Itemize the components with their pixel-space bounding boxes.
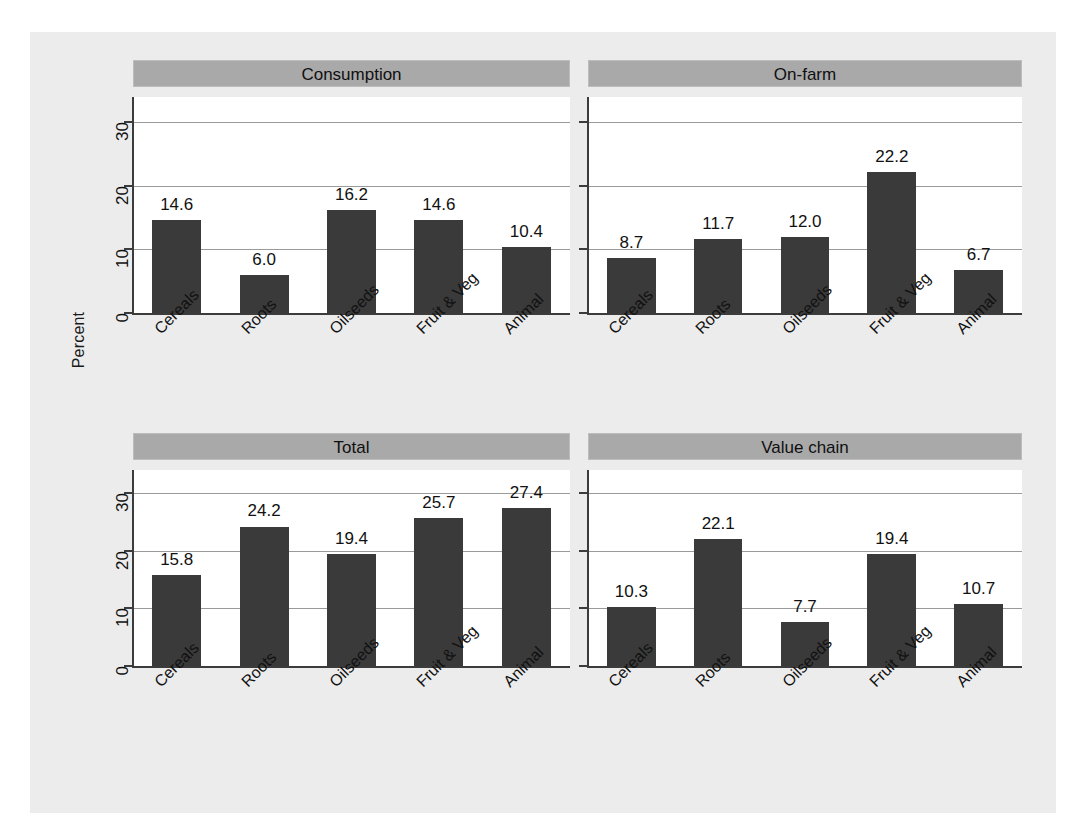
bar-value-label: 16.2 bbox=[316, 185, 388, 205]
y-axis-tick-label: 10 bbox=[113, 608, 133, 627]
y-axis-tick-label: 30 bbox=[113, 493, 133, 512]
bar-value-label: 22.1 bbox=[682, 514, 754, 534]
plot-area: 8.7Cereals11.7Roots12.0Oilseeds22.2Fruit… bbox=[588, 97, 1022, 313]
bar-value-label: 24.2 bbox=[228, 501, 300, 521]
bar-value-label: 22.2 bbox=[856, 147, 928, 167]
bar-value-label: 19.4 bbox=[316, 529, 388, 549]
plot-area: 010203015.8Cereals24.2Roots19.4Oilseeds2… bbox=[133, 470, 570, 666]
bars-layer: 14.6Cereals6.0Roots16.2Oilseeds14.6Fruit… bbox=[133, 97, 570, 313]
bar-value-label: 25.7 bbox=[403, 493, 475, 513]
bar-value-label: 10.7 bbox=[943, 579, 1015, 599]
panel-consumption: Consumption010203014.6Cereals6.0Roots16.… bbox=[133, 60, 570, 313]
bar-value-label: 19.4 bbox=[856, 529, 928, 549]
bar-value-label: 10.3 bbox=[595, 582, 667, 602]
y-axis-tick-label: 0 bbox=[113, 666, 133, 675]
y-axis-tick-label: 0 bbox=[113, 313, 133, 322]
panel-total: Total010203015.8Cereals24.2Roots19.4Oils… bbox=[133, 433, 570, 666]
panel-value-chain: Value chain10.3Cereals22.1Roots7.7Oilsee… bbox=[588, 433, 1022, 666]
bar-value-label: 14.6 bbox=[403, 195, 475, 215]
bars-layer: 8.7Cereals11.7Roots12.0Oilseeds22.2Fruit… bbox=[588, 97, 1022, 313]
bar-value-label: 14.6 bbox=[141, 195, 213, 215]
bar bbox=[240, 527, 289, 667]
y-axis-tick-label: 30 bbox=[113, 122, 133, 141]
bar-value-label: 15.8 bbox=[141, 550, 213, 570]
bar-value-label: 6.7 bbox=[943, 245, 1015, 265]
bar-value-label: 6.0 bbox=[228, 250, 300, 270]
panel-title: Total bbox=[133, 433, 570, 460]
bars-layer: 10.3Cereals22.1Roots7.7Oilseeds19.4Fruit… bbox=[588, 470, 1022, 666]
bar-value-label: 7.7 bbox=[769, 597, 841, 617]
panel-title: Consumption bbox=[133, 60, 570, 87]
y-axis-tick-label: 20 bbox=[113, 551, 133, 570]
bar-value-label: 10.4 bbox=[490, 222, 562, 242]
plot-area: 10.3Cereals22.1Roots7.7Oilseeds19.4Fruit… bbox=[588, 470, 1022, 666]
y-axis-tick-label: 20 bbox=[113, 186, 133, 205]
plot-area: 010203014.6Cereals6.0Roots16.2Oilseeds14… bbox=[133, 97, 570, 313]
bar-value-label: 8.7 bbox=[595, 233, 667, 253]
bar-value-label: 11.7 bbox=[682, 214, 754, 234]
bars-layer: 15.8Cereals24.2Roots19.4Oilseeds25.7Frui… bbox=[133, 470, 570, 666]
bar bbox=[502, 508, 551, 666]
bar-value-label: 27.4 bbox=[490, 483, 562, 503]
bar bbox=[694, 539, 743, 666]
y-axis-title: Percent bbox=[70, 270, 90, 410]
y-axis-tick-label: 10 bbox=[113, 249, 133, 268]
panel-title: Value chain bbox=[588, 433, 1022, 460]
panel-on-farm: On-farm8.7Cereals11.7Roots12.0Oilseeds22… bbox=[588, 60, 1022, 313]
bar-value-label: 12.0 bbox=[769, 212, 841, 232]
panel-title: On-farm bbox=[588, 60, 1022, 87]
